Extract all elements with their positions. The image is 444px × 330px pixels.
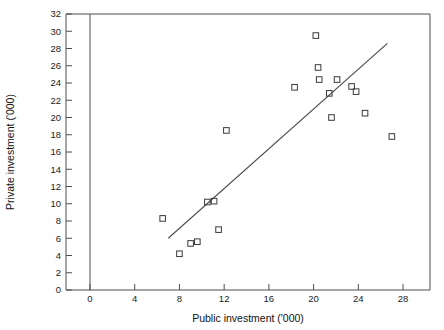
x-tick-label: 24 [353,293,364,304]
x-tick-label: 20 [308,293,319,304]
y-tick-label: 10 [50,198,61,209]
y-tick-label: 28 [50,43,61,54]
y-tick-label: 30 [50,26,61,37]
y-tick-label: 12 [50,181,61,192]
y-tick-label: 22 [50,95,61,106]
x-tick-label: 28 [398,293,409,304]
y-tick-label: 2 [56,267,61,278]
y-tick-label: 26 [50,60,61,71]
x-tick-label: 8 [177,293,182,304]
y-tick-label: 6 [56,233,61,244]
y-tick-label: 24 [50,77,61,88]
chart-background [0,0,444,330]
x-tick-label: 12 [219,293,230,304]
y-axis-label: Private investment ('000) [4,94,16,210]
x-axis-label: Public investment ('000) [192,312,304,324]
y-tick-label: 14 [50,164,61,175]
y-tick-label: 18 [50,129,61,140]
x-tick-label: 0 [87,293,92,304]
x-tick-label: 4 [132,293,137,304]
y-tick-label: 0 [56,284,61,295]
y-tick-label: 16 [50,146,61,157]
y-tick-label: 32 [50,8,61,19]
y-tick-label: 20 [50,112,61,123]
x-tick-label: 16 [264,293,275,304]
y-tick-label: 4 [56,250,61,261]
y-tick-label: 8 [56,215,61,226]
chart-canvas: 02468101214161820222426283032 0481216202… [0,0,444,330]
